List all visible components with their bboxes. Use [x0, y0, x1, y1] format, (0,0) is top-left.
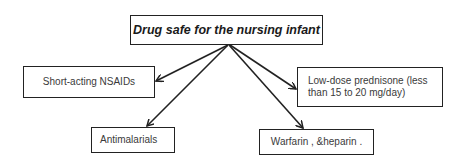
root-node-drug-safe-nursing-infant: Drug safe for the nursing infant [130, 15, 323, 45]
edge-root-to-nsaids [156, 45, 228, 81]
node-antimalarials: Antimalarials [91, 127, 175, 153]
node-label-prednisone: Low-dose prednisone (less than 15 to 20 … [308, 75, 433, 99]
flow-diagram: Drug safe for the nursing infant Short-a… [0, 0, 466, 166]
edge-root-to-prednisone [230, 45, 296, 89]
edge-root-to-antimalarials [147, 45, 228, 126]
root-node-label: Drug safe for the nursing infant [133, 24, 320, 36]
node-low-dose-prednisone: Low-dose prednisone (less than 15 to 20 … [297, 67, 443, 107]
edge-root-to-warfarin [229, 45, 303, 128]
node-short-acting-nsaids: Short-acting NSAIDs [23, 66, 155, 98]
node-label-antimalarials: Antimalarials [100, 134, 157, 146]
node-label-warfarin: Warfarin , &heparin . [271, 136, 362, 148]
node-warfarin-heparin: Warfarin , &heparin . [259, 129, 374, 155]
node-label-nsaids: Short-acting NSAIDs [43, 76, 135, 88]
